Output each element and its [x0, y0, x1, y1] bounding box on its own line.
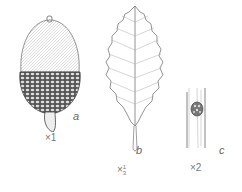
- twig-bud-illustration: [185, 88, 209, 148]
- figure-scale-b: ×13: [117, 164, 126, 176]
- figure-label-a: a: [73, 110, 79, 122]
- figure-label-c: c: [219, 144, 225, 156]
- figure-scale-a: ×1: [45, 132, 56, 143]
- figure-label-b: b: [136, 144, 142, 156]
- leaf-illustration: [104, 4, 166, 154]
- figure-scale-c: ×2: [190, 162, 201, 173]
